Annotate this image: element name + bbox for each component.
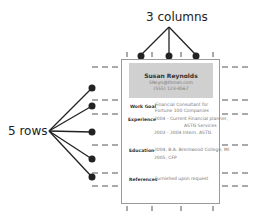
experience-line-1: 2004 - Current Financial planner, <box>154 116 228 122</box>
section-label-references: References <box>129 177 157 182</box>
resume-email: SReyn@thmsn.com <box>129 80 213 85</box>
rows-label: 5 rows <box>8 124 48 138</box>
column-pointers <box>141 27 196 55</box>
resume-name: Susan Reynolds <box>129 72 213 79</box>
work-goal-line-2: Fortune 100 Companies <box>155 108 209 114</box>
experience-line-2: ASTG Services <box>184 123 217 129</box>
columns-label: 3 columns <box>146 10 208 24</box>
row-dots <box>89 85 96 181</box>
education-line-2: 2005, CFP <box>154 155 177 161</box>
education-line-1: 2004, B.A. Brentwood College, MI <box>154 147 229 153</box>
references-line-1: Furnished upon request <box>155 176 208 182</box>
section-label-work-goal: Work Goal <box>130 104 156 109</box>
section-label-experience: Experience <box>128 117 156 122</box>
section-label-education: Education <box>129 148 154 153</box>
experience-line-3: 2003 - 2004 Intern, ASTG <box>154 130 211 136</box>
resume-phone: (555) 123-4567 <box>129 86 213 91</box>
row-pointers <box>49 88 92 177</box>
